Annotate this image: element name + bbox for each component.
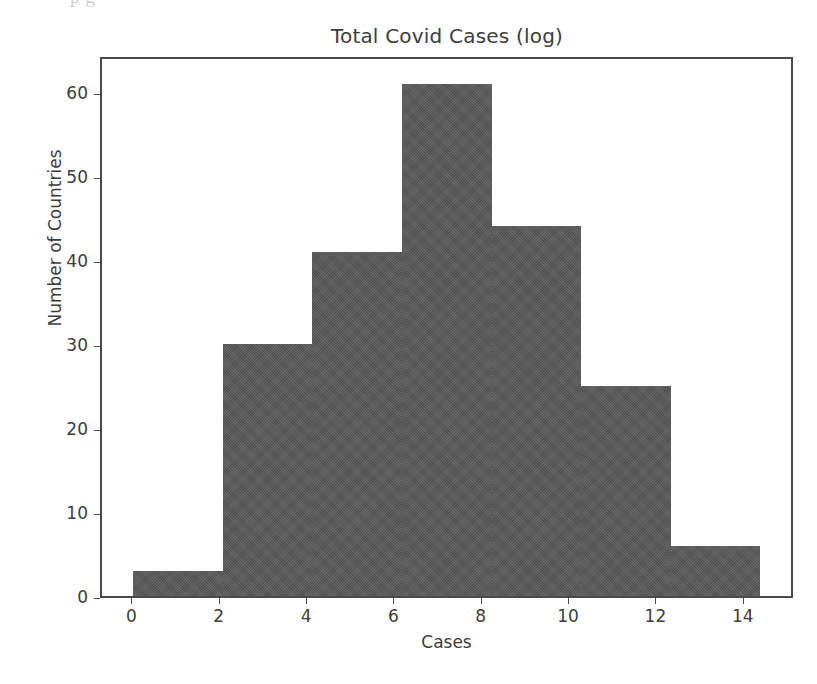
x-tick-label: 12 xyxy=(635,606,675,626)
chart-title: Total Covid Cases (log) xyxy=(100,24,794,48)
x-tick-label: 6 xyxy=(373,606,413,626)
y-tick-mark xyxy=(94,430,100,431)
y-tick-mark xyxy=(94,598,100,599)
x-tick-label: 8 xyxy=(461,606,501,626)
x-tick-mark xyxy=(655,598,656,604)
y-tick-label: 0 xyxy=(28,587,88,607)
y-axis-label: Number of Countries xyxy=(45,88,65,388)
y-tick-mark xyxy=(94,94,100,95)
x-tick-mark xyxy=(743,598,744,604)
histogram-bar xyxy=(312,252,402,596)
histogram-bar xyxy=(133,571,223,596)
x-axis-label: Cases xyxy=(100,632,793,652)
y-tick-mark xyxy=(94,178,100,179)
histogram-bar xyxy=(671,546,761,596)
x-tick-mark xyxy=(306,598,307,604)
x-tick-mark xyxy=(393,598,394,604)
histogram-figure: Total Covid Cases (log) 02468101214 0102… xyxy=(0,0,817,684)
plot-area xyxy=(100,57,793,598)
x-tick-mark xyxy=(568,598,569,604)
x-tick-label: 14 xyxy=(723,606,763,626)
x-tick-label: 10 xyxy=(548,606,588,626)
y-tick-mark xyxy=(94,514,100,515)
y-tick-mark xyxy=(94,262,100,263)
x-tick-mark xyxy=(481,598,482,604)
histogram-bars xyxy=(102,59,791,596)
x-tick-mark xyxy=(131,598,132,604)
histogram-bar xyxy=(223,344,313,596)
histogram-bar xyxy=(492,226,582,596)
x-tick-mark xyxy=(219,598,220,604)
y-tick-mark xyxy=(94,346,100,347)
y-tick-label: 20 xyxy=(28,419,88,439)
histogram-bar xyxy=(402,84,492,596)
x-tick-label: 0 xyxy=(111,606,151,626)
y-tick-label: 10 xyxy=(28,503,88,523)
x-tick-label: 4 xyxy=(286,606,326,626)
x-tick-label: 2 xyxy=(199,606,239,626)
histogram-bar xyxy=(581,386,671,596)
